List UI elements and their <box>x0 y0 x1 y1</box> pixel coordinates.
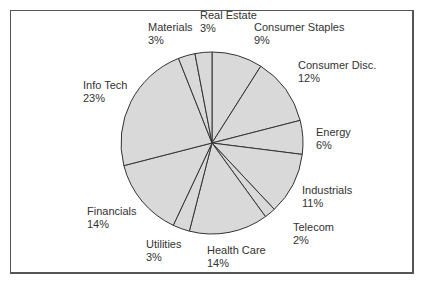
label-consumer-staples: Consumer Staples9% <box>254 21 345 47</box>
label-consumer-disc: Consumer Disc.12% <box>298 59 376 85</box>
label-energy: Energy6% <box>316 126 351 152</box>
label-industrials: Industrials11% <box>302 184 352 210</box>
label-utilities: Utilities3% <box>146 238 181 264</box>
label-real-estate: Real Estate3% <box>200 9 257 35</box>
label-financials: Financials14% <box>87 205 137 231</box>
label-materials: Materials3% <box>148 21 193 47</box>
label-health-care: Health Care14% <box>207 244 266 270</box>
label-info-tech: Info Tech23% <box>83 79 127 105</box>
label-telecom: Telecom2% <box>293 221 334 247</box>
